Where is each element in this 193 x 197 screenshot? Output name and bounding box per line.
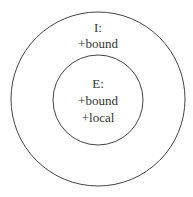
nested-circles-diagram: I: +bound E: +bound +local [0,0,193,197]
inner-feature-bound: +bound [78,93,118,108]
outer-feature-bound: +bound [78,36,118,51]
inner-label: E: [92,76,104,91]
outer-label: I: [94,20,102,35]
inner-feature-local: +local [82,110,115,125]
